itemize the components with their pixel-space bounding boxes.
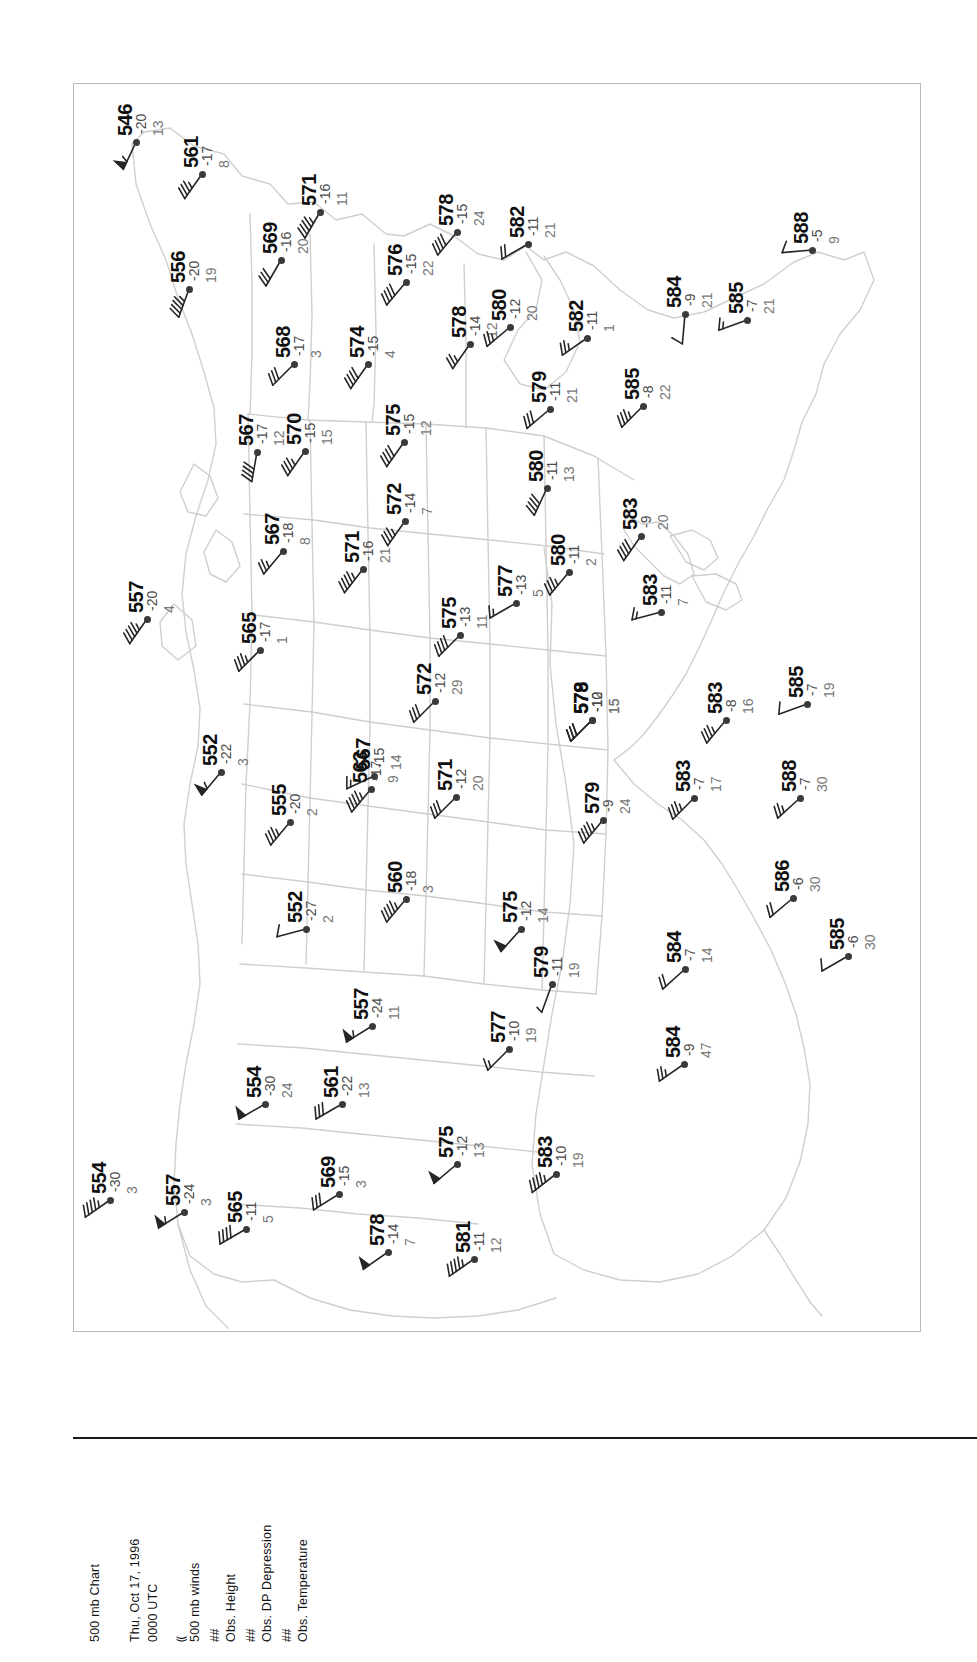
station-dewpoint-depression-label: 30 <box>814 776 830 792</box>
station-dewpoint-depression-label: 14 <box>699 947 715 963</box>
station-dewpoint-depression-label: 7 <box>675 598 691 606</box>
station-dot <box>804 701 811 708</box>
station-dot <box>723 717 730 724</box>
station-temperature-label: -6 <box>845 936 861 948</box>
station-temperature-label: -9 <box>638 516 654 528</box>
station-temperature-label: -10 <box>589 692 605 712</box>
station-dewpoint-depression-label: 13 <box>356 1082 372 1098</box>
station-dot <box>506 1046 513 1053</box>
station-dewpoint-depression-label: 19 <box>523 1027 539 1043</box>
temperature-hash-icon: ## <box>280 1629 294 1642</box>
station-temperature-label: -30 <box>107 1172 123 1192</box>
station-dewpoint-depression-label: 3 <box>353 1180 369 1188</box>
station-temperature-label: -22 <box>218 744 234 764</box>
station-temperature-label: -17 <box>368 761 384 781</box>
station-dewpoint-depression-label: 29 <box>449 679 465 695</box>
station-dewpoint-depression-label: 21 <box>542 222 558 238</box>
station-temperature-label: -12 <box>507 299 523 319</box>
station-dewpoint-depression-label: 3 <box>308 350 324 358</box>
station-dewpoint-depression-label: 21 <box>761 298 777 314</box>
station-temperature-label: -20 <box>186 261 202 281</box>
station-dot <box>385 1249 392 1256</box>
dpd-hash-icon: ## <box>244 1629 258 1642</box>
station-temperature-label: -20 <box>144 591 160 611</box>
station-dot <box>199 171 206 178</box>
weather-chart-page: 546-2013561-178569-1620571-1611556-20195… <box>0 0 977 1662</box>
station-dot <box>845 953 852 960</box>
station-dewpoint-depression-label: 9 <box>826 236 842 244</box>
station-dot <box>640 403 647 410</box>
station-dewpoint-depression-label: 7 <box>419 507 435 515</box>
station-dot <box>454 229 461 236</box>
station-dot <box>681 1061 688 1068</box>
station-dewpoint-depression-label: 17 <box>708 776 724 792</box>
legend-label-dp-depression: Obs. DP Depression <box>260 1525 274 1642</box>
station-temperature-label: -11 <box>544 461 560 480</box>
station-dewpoint-depression-label: 19 <box>821 682 837 698</box>
chart-date: Thu, Oct 17, 1996 <box>128 1539 142 1642</box>
station-temperature-label: -17 <box>254 424 270 444</box>
station-dewpoint-depression-label: 7 <box>402 1238 418 1246</box>
station-temperature-label: -12 <box>432 673 448 693</box>
station-temperature-label: -17 <box>257 622 273 642</box>
station-dewpoint-depression-label: 21 <box>564 387 580 403</box>
station-temperature-label: -11 <box>547 382 563 401</box>
station-dewpoint-depression-label: 11 <box>474 614 490 629</box>
station-dot <box>566 569 573 576</box>
station-dewpoint-depression-label: 3 <box>124 1186 140 1194</box>
station-dot <box>401 439 408 446</box>
station-dot <box>365 361 372 368</box>
station-temperature-label: -17 <box>199 146 215 166</box>
station-dot <box>339 1101 346 1108</box>
station-dewpoint-depression-label: 24 <box>617 798 633 814</box>
station-dewpoint-depression-label: 2 <box>583 558 599 566</box>
station-dot <box>797 795 804 802</box>
station-dot <box>262 1101 269 1108</box>
station-temperature-label: -22 <box>339 1076 355 1096</box>
station-dot <box>638 533 645 540</box>
station-dewpoint-depression-label: 12 <box>488 1237 504 1253</box>
station-temperature-label: -14 <box>385 1224 401 1244</box>
station-dewpoint-depression-label: 12 <box>271 430 287 446</box>
station-dewpoint-depression-label: 4 <box>382 350 398 358</box>
station-temperature-label: -11 <box>471 1232 487 1251</box>
station-temperature-label: -7 <box>744 300 760 312</box>
legend-label-winds: 500 mb winds <box>188 1562 202 1642</box>
station-dot <box>691 795 698 802</box>
station-dot <box>336 1191 343 1198</box>
station-dot <box>280 548 287 555</box>
station-dot <box>682 311 689 318</box>
legend: 500 mb Chart Thu, Oct 17, 1996 0000 UTC … <box>78 1380 348 1650</box>
station-dot <box>525 241 532 248</box>
station-dewpoint-depression-label: 4 <box>161 605 177 613</box>
legend-label-temperature: Obs. Temperature <box>296 1539 310 1642</box>
station-dot <box>513 600 520 607</box>
station-dot <box>547 406 554 413</box>
station-temperature-label: -10 <box>553 1146 569 1166</box>
station-dewpoint-depression-label: 30 <box>807 876 823 892</box>
station-dot <box>287 819 294 826</box>
station-temperature-label: -27 <box>303 901 319 921</box>
station-dot <box>243 1226 250 1233</box>
station-temperature-label: -13 <box>457 607 473 627</box>
station-dot <box>278 257 285 264</box>
station-dot <box>360 566 367 573</box>
station-dot <box>553 1171 560 1178</box>
station-dewpoint-depression-label: 11 <box>334 191 350 206</box>
station-dot <box>403 896 410 903</box>
station-temperature-label: -11 <box>243 1202 259 1221</box>
station-dewpoint-depression-label: 2 <box>320 915 336 923</box>
station-dewpoint-depression-label: 13 <box>471 1142 487 1158</box>
station-temperature-label: -11 <box>549 957 565 976</box>
station-temperature-label: -5 <box>809 230 825 242</box>
station-dot <box>453 794 460 801</box>
station-temperature-label: -20 <box>133 114 149 134</box>
station-dewpoint-depression-label: 3 <box>420 885 436 893</box>
station-dot <box>317 209 324 216</box>
chart-time: 0000 UTC <box>146 1583 160 1642</box>
station-temperature-label: -24 <box>181 1184 197 1204</box>
station-dot <box>144 616 151 623</box>
station-temperature-label: -11 <box>566 545 582 564</box>
station-dot <box>368 786 375 793</box>
station-temperature-label: -6 <box>790 878 806 890</box>
